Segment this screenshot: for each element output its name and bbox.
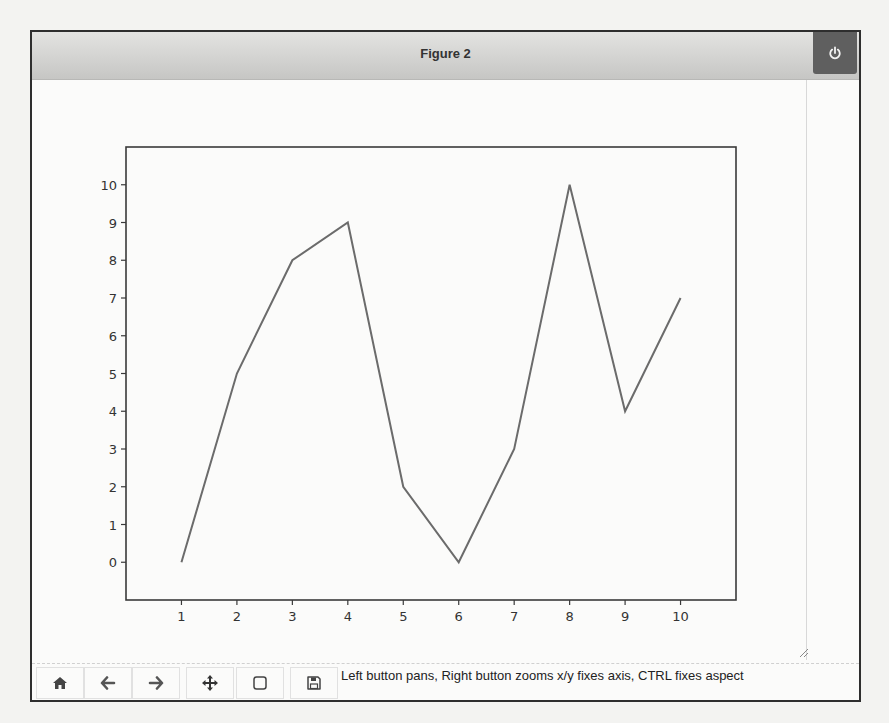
x-tick-label: 9 xyxy=(621,609,629,624)
x-tick-label: 6 xyxy=(455,609,463,624)
y-tick-label: 2 xyxy=(109,480,117,495)
y-tick-label: 4 xyxy=(109,404,117,419)
x-tick-label: 3 xyxy=(288,609,296,624)
y-tick-label: 8 xyxy=(109,253,117,268)
x-tick-label: 5 xyxy=(399,609,407,624)
save-icon xyxy=(306,675,322,691)
status-message: Left button pans, Right button zooms x/y… xyxy=(341,668,744,683)
x-tick-label: 2 xyxy=(233,609,241,624)
pan-button[interactable] xyxy=(186,667,234,699)
y-tick-label: 7 xyxy=(109,291,117,306)
y-tick-label: 1 xyxy=(109,518,117,533)
plot-canvas[interactable]: 12345678910012345678910 xyxy=(32,80,859,666)
move-icon xyxy=(201,674,219,692)
home-button[interactable] xyxy=(36,667,84,699)
arrow-right-icon xyxy=(148,676,164,690)
x-tick-label: 7 xyxy=(510,609,518,624)
y-tick-label: 9 xyxy=(109,216,117,231)
power-icon xyxy=(828,46,842,60)
y-tick-label: 5 xyxy=(109,367,117,382)
zoom-rect-button[interactable] xyxy=(236,667,284,699)
resize-grip-icon[interactable] xyxy=(799,648,809,658)
arrow-left-icon xyxy=(100,676,116,690)
forward-button[interactable] xyxy=(132,667,180,699)
zoom-rect-icon xyxy=(252,675,268,691)
x-tick-label: 1 xyxy=(177,609,185,624)
y-tick-label: 3 xyxy=(109,442,117,457)
y-tick-label: 0 xyxy=(109,555,117,570)
back-button[interactable] xyxy=(84,667,132,699)
home-icon xyxy=(52,676,68,690)
title-bar[interactable]: Figure 2 xyxy=(32,32,859,80)
navigation-toolbar: Left button pans, Right button zooms x/y… xyxy=(32,663,859,700)
data-line xyxy=(181,185,680,563)
x-tick-label: 8 xyxy=(565,609,573,624)
window-title: Figure 2 xyxy=(32,46,859,61)
x-tick-label: 4 xyxy=(344,609,352,624)
close-button[interactable] xyxy=(813,32,857,74)
save-button[interactable] xyxy=(290,667,338,699)
figure-window: Figure 2 12345678910012345678910 xyxy=(30,30,861,702)
x-tick-label: 10 xyxy=(672,609,689,624)
y-tick-label: 6 xyxy=(109,329,117,344)
y-tick-label: 10 xyxy=(100,178,117,193)
